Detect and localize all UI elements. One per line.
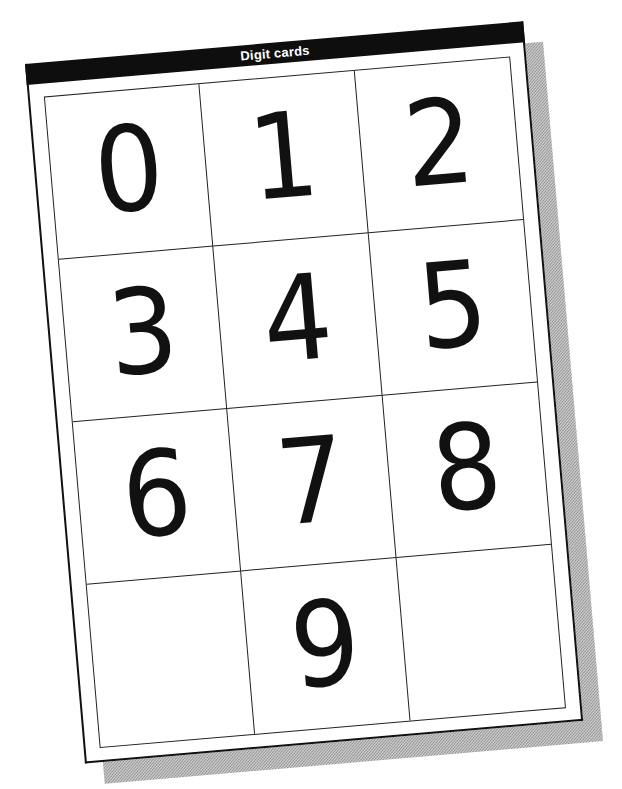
card-cell-empty bbox=[87, 571, 256, 747]
card-digit: 7 bbox=[272, 419, 351, 542]
card-cell: 9 bbox=[241, 558, 410, 734]
page: Digit cards 0 1 2 3 4 5 6 7 8 9 bbox=[25, 21, 583, 763]
card-cell: 7 bbox=[228, 396, 397, 572]
card-digit: 6 bbox=[117, 433, 196, 556]
card-cell: 2 bbox=[354, 58, 523, 234]
card-digit: 8 bbox=[427, 406, 506, 529]
card-cell-empty bbox=[396, 545, 565, 721]
card-grid: 0 1 2 3 4 5 6 7 8 9 bbox=[44, 57, 566, 749]
card-digit: 3 bbox=[103, 270, 182, 393]
card-digit: 4 bbox=[258, 257, 337, 380]
card-digit: 5 bbox=[413, 244, 492, 367]
card-cell: 1 bbox=[200, 71, 369, 247]
card-cell: 4 bbox=[214, 233, 383, 409]
page-title: Digit cards bbox=[240, 43, 310, 64]
card-digit: 0 bbox=[89, 108, 168, 231]
card-digit: 9 bbox=[286, 582, 365, 705]
printed-sheet: Digit cards 0 1 2 3 4 5 6 7 8 9 bbox=[25, 21, 583, 763]
card-cell: 8 bbox=[382, 382, 551, 558]
card-cell: 5 bbox=[368, 220, 537, 396]
card-digit: 2 bbox=[399, 81, 478, 204]
card-cell: 0 bbox=[45, 84, 214, 260]
card-digit: 1 bbox=[244, 95, 323, 218]
card-cell: 3 bbox=[59, 247, 228, 423]
card-cell: 6 bbox=[73, 409, 242, 585]
